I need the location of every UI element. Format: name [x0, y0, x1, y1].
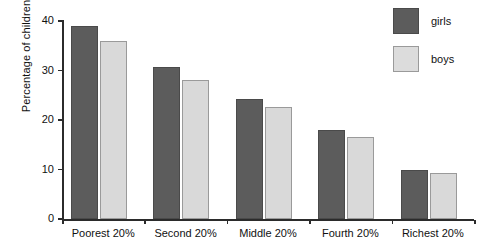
bar-girls-4 [401, 170, 428, 220]
bar-girls-2 [236, 99, 263, 219]
x-tick-mark [309, 220, 311, 224]
bar-group [236, 21, 309, 219]
x-tick-mark [227, 220, 229, 224]
x-axis-label: Fourth 20% [309, 226, 391, 240]
y-tick-label: 30 [42, 63, 54, 78]
bar-group [318, 21, 391, 219]
legend-swatch-boys [393, 46, 419, 72]
y-tick-label: 20 [42, 112, 54, 127]
x-axis-label: Poorest 20% [62, 226, 144, 240]
x-axis-label: Middle 20% [227, 226, 309, 240]
x-axis-line [62, 219, 474, 221]
x-tick-mark [62, 220, 64, 224]
bar-boys-0 [100, 41, 127, 219]
bar-girls-1 [153, 67, 180, 219]
bar-boys-1 [182, 80, 209, 219]
bar-boys-4 [430, 173, 457, 219]
bar-group [153, 21, 226, 219]
legend-label-boys: boys [431, 52, 454, 66]
x-axis-label: Second 20% [144, 226, 226, 240]
x-tick-mark [144, 220, 146, 224]
x-axis-label: Richest 20% [392, 226, 474, 240]
x-tick-mark [474, 220, 476, 224]
y-tick-label: 0 [48, 211, 54, 226]
bar-group [71, 21, 144, 219]
y-axis-title: Percentage of children [20, 0, 32, 136]
legend-swatch-girls [393, 8, 419, 34]
legend-label-girls: girls [431, 14, 451, 28]
bar-boys-2 [265, 107, 292, 219]
bar-girls-0 [71, 26, 98, 219]
y-tick-label: 40 [42, 13, 54, 28]
bar-girls-3 [318, 130, 345, 219]
bar-chart: Percentage of children 010203040 Poorest… [0, 0, 486, 250]
y-tick-label: 10 [42, 162, 54, 177]
bar-boys-3 [347, 137, 374, 219]
x-tick-mark [392, 220, 394, 224]
